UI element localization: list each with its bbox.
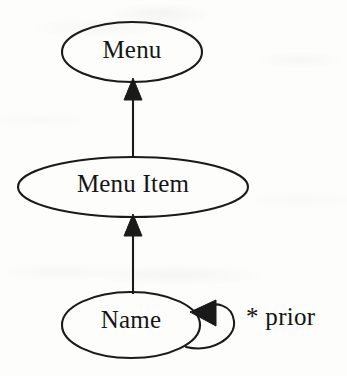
node-label-menu: Menu: [62, 36, 202, 64]
node-label-menu-item: Menu Item: [18, 170, 248, 198]
node-label-name: Name: [62, 306, 200, 334]
edge-menu-item-to-menu[interactable]: [124, 78, 142, 157]
diagram-canvas: Menu Menu Item Name * prior: [0, 0, 347, 376]
edge-label-prior: * prior: [246, 303, 315, 331]
edge-name-to-menu-item[interactable]: [124, 214, 142, 294]
